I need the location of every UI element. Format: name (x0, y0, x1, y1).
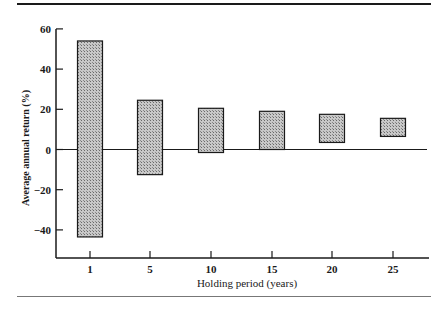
y-axis-title: Average annual return (%) (20, 90, 32, 206)
x-tick-label: 1 (87, 263, 93, 275)
bottom-rule (17, 296, 431, 297)
y-tick-label: 40 (40, 63, 52, 75)
holding-period-chart: 6040200−20−401510152025 Holding period (… (0, 0, 445, 313)
range-bar-15 (260, 111, 285, 149)
range-bar-20 (320, 114, 345, 142)
y-tick-label: −40 (34, 224, 52, 236)
y-tick-label: 60 (40, 23, 52, 35)
y-tick-label: 20 (40, 103, 52, 115)
x-axis-title: Holding period (years) (197, 277, 298, 290)
x-tick-label: 10 (206, 263, 218, 275)
range-bar-25 (381, 118, 406, 136)
x-tick-label: 5 (147, 263, 153, 275)
x-tick-label: 15 (267, 263, 279, 275)
x-tick-label: 25 (388, 263, 400, 275)
range-bar-10 (199, 108, 224, 152)
x-tick-label: 20 (327, 263, 339, 275)
bars (78, 41, 406, 237)
range-bar-5 (138, 100, 163, 174)
y-tick-label: 0 (46, 144, 52, 156)
y-tick-label: −20 (34, 184, 52, 196)
axes (56, 29, 429, 258)
range-bar-1 (78, 41, 103, 237)
